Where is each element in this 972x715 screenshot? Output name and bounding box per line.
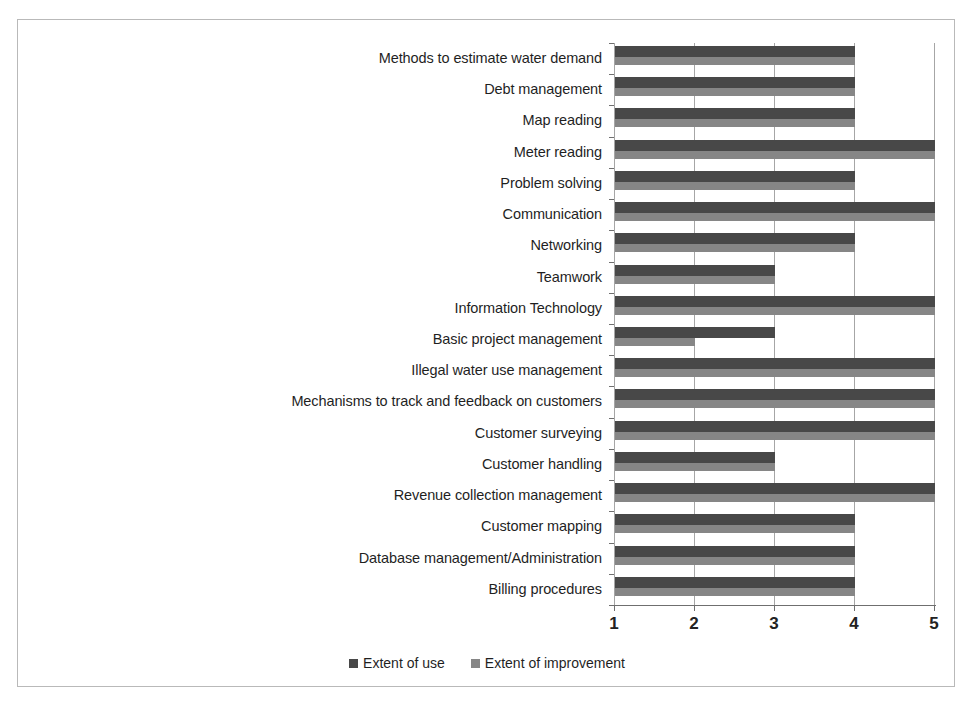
bar-group [615,168,935,199]
bar-extent-of-use [615,452,775,463]
bar-group [615,386,935,417]
category-tick [609,449,614,450]
value-axis-tick-label: 5 [919,614,949,634]
value-axis-tick [694,605,695,611]
bar-extent-of-improvement [615,557,855,565]
category-axis: Methods to estimate water demandDebt man… [18,43,610,605]
chart-plot-wrapper: Methods to estimate water demandDebt man… [18,20,956,688]
bar-extent-of-improvement [615,432,935,440]
category-tick [609,324,614,325]
bar-group [615,449,935,480]
category-tick [609,386,614,387]
value-axis-tick [614,605,615,611]
bar-extent-of-use [615,514,855,525]
category-label: Meter reading [514,137,602,168]
category-tick [609,74,614,75]
value-axis-tick-label: 3 [759,614,789,634]
bar-group [615,511,935,542]
bar-group [615,324,935,355]
bar-extent-of-use [615,327,775,338]
category-label: Information Technology [455,293,602,324]
category-label: Database management/Administration [359,543,602,574]
bar-group [615,293,935,324]
value-axis: 12345 [614,605,936,645]
bar-extent-of-improvement [615,307,935,315]
bar-extent-of-use [615,389,935,400]
bar-group [615,543,935,574]
bar-group [615,480,935,511]
category-tick [609,418,614,419]
bar-group [615,230,935,261]
bar-group [615,199,935,230]
bar-extent-of-improvement [615,88,855,96]
chart-legend: Extent of useExtent of improvement [18,654,956,671]
bar-extent-of-use [615,483,935,494]
legend-swatch-icon [471,659,480,668]
bar-extent-of-use [615,358,935,369]
bar-extent-of-use [615,108,855,119]
bar-extent-of-improvement [615,57,855,65]
category-tick [609,293,614,294]
bar-extent-of-use [615,171,855,182]
category-label: Networking [530,230,602,261]
bar-extent-of-improvement [615,244,855,252]
bar-group [615,74,935,105]
value-axis-tick [774,605,775,611]
bar-group [615,137,935,168]
bar-extent-of-improvement [615,525,855,533]
bar-extent-of-improvement [615,369,935,377]
bar-extent-of-improvement [615,588,855,596]
category-tick [609,168,614,169]
bar-group [615,418,935,449]
bar-extent-of-improvement [615,494,935,502]
category-label: Basic project management [433,324,602,355]
plot-area [614,43,936,605]
bar-extent-of-use [615,421,935,432]
category-tick [609,543,614,544]
bar-extent-of-use [615,296,935,307]
category-label: Debt management [484,74,602,105]
category-tick [609,137,614,138]
category-label: Mechanisms to track and feedback on cust… [291,386,602,417]
category-tick [609,480,614,481]
bar-group [615,355,935,386]
bar-extent-of-use [615,140,935,151]
category-tick [609,43,614,44]
category-label: Methods to estimate water demand [379,43,602,74]
value-axis-tick [934,605,935,611]
value-axis-line [614,605,936,606]
bar-extent-of-use [615,233,855,244]
bar-extent-of-improvement [615,276,775,284]
category-label: Customer surveying [475,418,602,449]
legend-label: Extent of use [363,655,445,671]
bar-extent-of-improvement [615,400,935,408]
bar-group [615,262,935,293]
legend-label: Extent of improvement [485,655,625,671]
legend-swatch-icon [349,659,358,668]
category-label: Teamwork [537,262,602,293]
category-tick [609,574,614,575]
category-label: Revenue collection management [394,480,602,511]
bar-group [615,574,935,605]
category-label: Illegal water use management [411,355,602,386]
category-label: Customer handling [482,449,602,480]
category-tick [609,105,614,106]
category-tick [609,262,614,263]
bar-extent-of-use [615,202,935,213]
legend-item[interactable]: Extent of improvement [471,655,625,671]
category-tick [609,199,614,200]
value-axis-tick [854,605,855,611]
chart-container: Methods to estimate water demandDebt man… [17,19,955,687]
bar-extent-of-improvement [615,463,775,471]
value-axis-tick-label: 2 [679,614,709,634]
bar-extent-of-use [615,46,855,57]
legend-item[interactable]: Extent of use [349,655,445,671]
category-tick [609,230,614,231]
bar-extent-of-use [615,265,775,276]
bar-extent-of-improvement [615,338,695,346]
bar-group [615,43,935,74]
value-axis-tick-label: 4 [839,614,869,634]
bar-extent-of-use [615,577,855,588]
category-label: Problem solving [500,168,602,199]
category-label: Billing procedures [489,574,602,605]
